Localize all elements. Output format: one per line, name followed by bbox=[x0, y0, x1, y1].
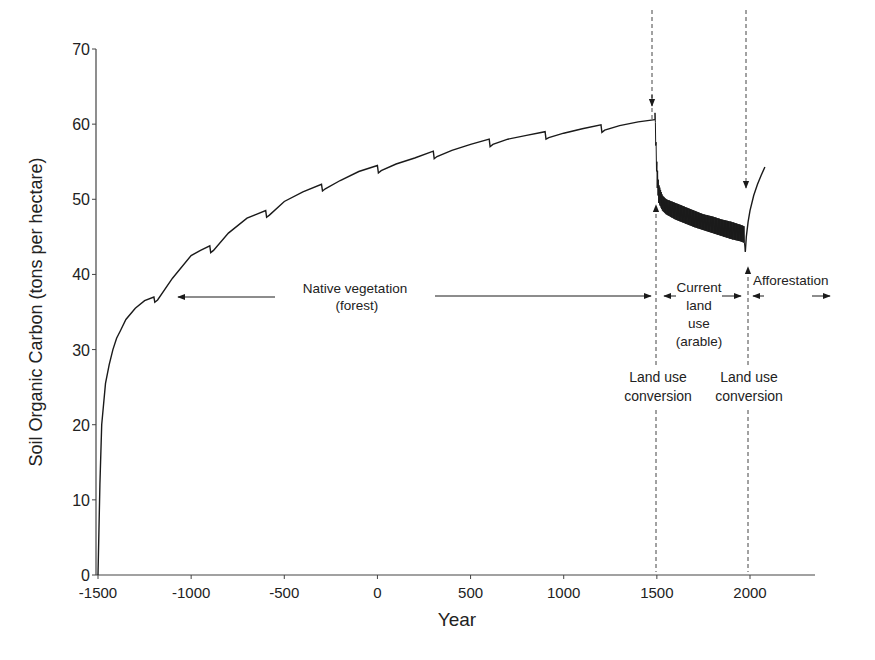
afforestation-label: Afforestation bbox=[753, 273, 829, 288]
conversion-label-2a: Land use bbox=[720, 369, 778, 385]
x-tick-label: -500 bbox=[269, 584, 299, 601]
y-tick-label: 40 bbox=[72, 266, 90, 283]
x-tick-label: 1000 bbox=[547, 584, 580, 601]
current-label-2: land bbox=[686, 298, 712, 313]
x-axis-label: Year bbox=[438, 609, 477, 630]
y-tick-label: 30 bbox=[72, 342, 90, 359]
y-ticks: 010203040506070 bbox=[72, 41, 96, 584]
y-tick-label: 70 bbox=[72, 41, 90, 58]
y-tick-label: 50 bbox=[72, 191, 90, 208]
native-label-2: (forest) bbox=[336, 298, 379, 313]
native-vegetation-curve bbox=[98, 120, 655, 575]
x-tick-label: 2000 bbox=[733, 584, 766, 601]
y-tick-label: 20 bbox=[72, 417, 90, 434]
x-tick-label: -1000 bbox=[172, 584, 210, 601]
y-axis-label: Soil Organic Carbon (tons per hectare) bbox=[26, 157, 46, 466]
current-label-3: use bbox=[688, 316, 710, 331]
arable-oscillation-band bbox=[655, 113, 745, 252]
afforestation-curve bbox=[745, 167, 765, 252]
y-tick-label: 60 bbox=[72, 116, 90, 133]
x-tick-label: 0 bbox=[373, 584, 381, 601]
y-tick-label: 0 bbox=[81, 567, 90, 584]
conversion-label-1b: conversion bbox=[624, 388, 692, 404]
current-label-4: (arable) bbox=[676, 334, 723, 349]
x-tick-label: 1500 bbox=[640, 584, 673, 601]
conversion-label-2b: conversion bbox=[715, 388, 783, 404]
x-tick-label: 500 bbox=[458, 584, 483, 601]
x-tick-label: -1500 bbox=[79, 584, 117, 601]
native-label-1: Native vegetation bbox=[303, 281, 407, 296]
soil-carbon-chart: 010203040506070 -1500-1000-5000500100015… bbox=[0, 0, 875, 660]
x-ticks: -1500-1000-5000500100015002000 bbox=[79, 575, 767, 601]
current-label-1: Current bbox=[676, 280, 721, 295]
conversion-label-1a: Land use bbox=[629, 369, 687, 385]
y-tick-label: 10 bbox=[72, 492, 90, 509]
